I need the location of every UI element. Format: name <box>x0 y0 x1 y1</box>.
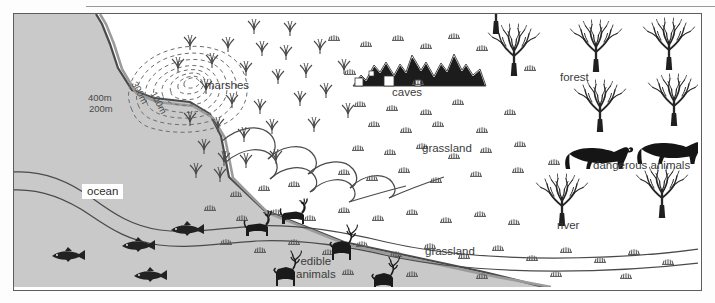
contour-label-400: 400m <box>88 92 112 103</box>
map-frame: ocean 400m 300m 200m 100m marshes caves … <box>13 13 702 291</box>
contour-label-200: 200m <box>89 103 113 114</box>
label-ocean: ocean <box>82 184 123 199</box>
top-rule-divider <box>86 6 715 7</box>
map-illustration <box>14 14 698 287</box>
map-figure: ocean 400m 300m 200m 100m marshes caves … <box>0 0 715 303</box>
